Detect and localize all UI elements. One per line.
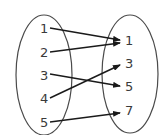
arrow-5-to-7 xyxy=(50,113,120,122)
domain-label-3: 3 xyxy=(40,68,48,83)
range-label-3: 3 xyxy=(125,56,133,71)
domain-label-4: 4 xyxy=(40,91,48,106)
arrow-2-to-1 xyxy=(50,43,120,52)
range-label-1: 1 xyxy=(125,33,133,48)
arrow-4-to-3 xyxy=(50,65,120,98)
domain-label-5: 5 xyxy=(40,115,48,130)
arrow-3-to-5 xyxy=(50,74,120,86)
range-label-7: 7 xyxy=(125,103,133,118)
mapping-diagram: 1 2 3 4 5 1 3 5 7 xyxy=(0,0,167,135)
domain-label-1: 1 xyxy=(40,21,48,36)
domain-label-2: 2 xyxy=(40,45,48,60)
range-label-5: 5 xyxy=(125,79,133,94)
